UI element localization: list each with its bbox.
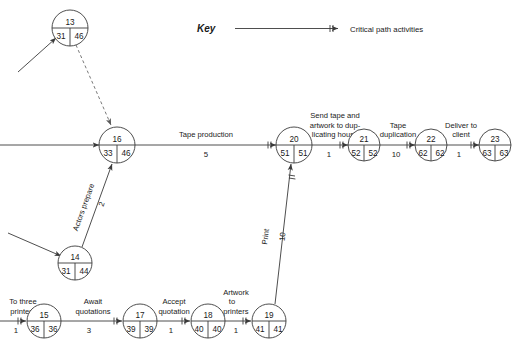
label-artwork-line2: to	[229, 297, 235, 306]
key-label: Key	[197, 23, 216, 34]
edge-into-node-14	[8, 233, 61, 256]
duration-tape-production: 5	[204, 150, 209, 159]
node-18-id: 18	[203, 311, 213, 320]
label-artwork-line1: Artwork	[223, 288, 249, 297]
node-15-id: 15	[39, 311, 49, 320]
node-16-earliest: 33	[103, 149, 113, 158]
label-tape-production: Tape production	[179, 130, 233, 139]
label-deliver-line1: Deliver to	[445, 121, 477, 130]
node-19-id: 19	[264, 311, 274, 320]
node-19-latest: 41	[273, 325, 283, 334]
node-19[interactable]: 19 41 41	[252, 304, 286, 338]
label-actors-prepare: Actors prepare	[71, 182, 96, 232]
key-legend: Key Critical path activities	[197, 23, 423, 34]
node-23-earliest: 63	[482, 149, 492, 158]
node-18[interactable]: 18 40 40	[191, 304, 225, 338]
edge-into-node-13	[18, 38, 56, 72]
node-13-earliest: 31	[56, 32, 66, 41]
key-description: Critical path activities	[350, 25, 423, 34]
node-21-id: 21	[359, 135, 369, 144]
node-13-id: 13	[65, 18, 75, 27]
label-await-line2: quotations	[75, 307, 110, 316]
node-21-latest: 52	[368, 149, 378, 158]
node-14-id: 14	[70, 253, 80, 262]
node-20-latest: 51	[298, 149, 308, 158]
node-18-latest: 40	[212, 325, 222, 334]
node-17[interactable]: 17 39 39	[123, 304, 157, 338]
node-16-latest: 46	[121, 149, 131, 158]
duration-accept: 1	[169, 326, 173, 335]
label-artwork-line3: printers	[223, 307, 249, 316]
label-to-three-printers-line1: To three	[9, 297, 36, 306]
node-21-earliest: 52	[351, 149, 361, 158]
label-tape-duplication-line2: duplication	[380, 130, 416, 139]
label-send-tape-line1: Send tape and	[310, 111, 359, 120]
label-await-line1: Await	[84, 297, 103, 306]
duration-to-three-printers: 1	[14, 326, 18, 335]
duration-actors-prepare: 2	[97, 201, 107, 208]
node-20-earliest: 51	[280, 149, 290, 158]
node-23-id: 23	[490, 135, 500, 144]
node-13[interactable]: 13 31 46	[52, 10, 88, 46]
node-22-latest: 62	[435, 149, 445, 158]
diagram-svg: Key Critical path activities	[0, 0, 523, 351]
node-18-earliest: 40	[194, 325, 204, 334]
node-13-latest: 46	[74, 32, 84, 41]
label-print: Print	[260, 228, 271, 245]
label-accept-line2: quotation	[158, 307, 189, 316]
node-23-latest: 63	[499, 149, 509, 158]
network-diagram-canvas: Key Critical path activities	[0, 0, 523, 351]
node-22-id: 22	[426, 135, 436, 144]
node-23[interactable]: 23 63 63	[479, 129, 511, 161]
duration-send-tape: 1	[327, 150, 331, 159]
node-17-id: 17	[135, 311, 145, 320]
node-20-id: 20	[289, 135, 299, 144]
node-14-earliest: 31	[61, 267, 71, 276]
node-22[interactable]: 22 62 62	[415, 129, 447, 161]
node-21[interactable]: 21 52 52	[348, 129, 380, 161]
duration-deliver: 1	[457, 150, 461, 159]
label-accept-line1: Accept	[162, 297, 186, 306]
node-17-latest: 39	[144, 325, 154, 334]
duration-artwork: 1	[234, 326, 238, 335]
node-17-earliest: 39	[126, 325, 136, 334]
duration-tape-duplication: 10	[392, 150, 401, 159]
duration-await: 3	[87, 326, 91, 335]
node-15-latest: 36	[48, 325, 58, 334]
duration-print: 10	[278, 231, 288, 241]
node-22-earliest: 62	[418, 149, 428, 158]
label-tape-duplication-line1: Tape	[390, 121, 406, 130]
node-16[interactable]: 16 33 46	[99, 127, 135, 163]
edge-19-20-tick-2	[289, 178, 296, 179]
node-15[interactable]: 15 36 36	[27, 304, 61, 338]
label-send-tape-line2: artwork to dup-	[310, 121, 361, 130]
node-19-earliest: 41	[255, 325, 265, 334]
edge-dummy-13-to-16	[76, 45, 111, 125]
node-20[interactable]: 20 51 51	[276, 127, 312, 163]
node-14[interactable]: 14 31 44	[58, 246, 92, 280]
node-14-latest: 44	[79, 267, 89, 276]
node-15-earliest: 36	[30, 325, 40, 334]
node-16-id: 16	[112, 135, 122, 144]
label-deliver-line2: client	[452, 130, 471, 139]
